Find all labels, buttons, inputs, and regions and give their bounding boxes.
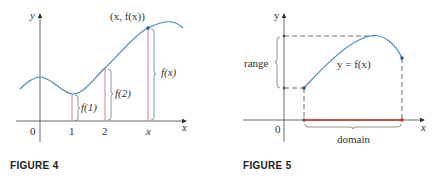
figure-4: y x (x, f(x)) 0 1 2 x f(1) f(2) f(x) FIG…	[10, 9, 187, 171]
brace-fx	[151, 29, 156, 120]
range-bottom-tick	[283, 87, 285, 89]
domain-start-dot	[302, 118, 306, 122]
curve-label: y = f(x)	[337, 58, 371, 71]
range-label: range	[244, 57, 269, 69]
point-marker	[146, 26, 150, 30]
figure-5-caption: FIGURE 5	[243, 160, 292, 171]
height-label-fx: f(x)	[161, 66, 177, 79]
tick-label-2: 2	[102, 125, 108, 137]
origin-label: 0	[275, 123, 281, 135]
brace-f2	[108, 69, 113, 120]
tick-label-1: 1	[69, 125, 75, 137]
domain-brace	[305, 124, 401, 129]
range-brace	[275, 37, 280, 88]
brace-f1	[75, 95, 80, 121]
x-axis-label: x	[181, 121, 187, 133]
figure-4-caption: FIGURE 4	[10, 160, 59, 171]
tick-label-x: x	[145, 125, 151, 137]
y-axis-label: y	[29, 9, 35, 21]
y-axis-label: y	[274, 9, 280, 21]
height-label-f2: f(2)	[115, 87, 131, 100]
domain-end-dot	[400, 118, 404, 122]
range-top-tick	[283, 35, 285, 37]
figures-canvas: y x (x, f(x)) 0 1 2 x f(1) f(2) f(x) FIG…	[0, 0, 445, 179]
height-label-f1: f(1)	[81, 101, 97, 114]
point-label: (x, f(x))	[110, 10, 145, 23]
domain-label: domain	[337, 133, 370, 145]
x-axis-label: x	[420, 121, 426, 133]
figure-5: y x 0 y = f(x) range domain FIGURE 5	[243, 9, 426, 171]
curve-start-dot	[302, 86, 306, 90]
function-curve	[20, 22, 183, 94]
tick-label-0: 0	[30, 125, 36, 137]
curve-end-dot	[400, 56, 404, 60]
